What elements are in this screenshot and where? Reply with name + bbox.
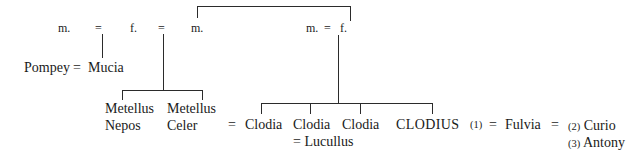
pompey-marriage-sign: = (73, 60, 81, 77)
clodius-label: CLODIUS (396, 117, 459, 134)
fulvia-marriage-2: (2) Curio (568, 117, 625, 134)
clodia-3-label: Clodia (342, 117, 379, 134)
pompey-label: Pompey (24, 60, 70, 77)
metellus-celer-line1: Metellus (167, 100, 216, 117)
metellus-celer-drop (202, 90, 203, 100)
clodius-marriage-number-1: (1) (470, 119, 482, 131)
gen1-right-marriage-sign: = (324, 21, 331, 35)
clodia-1-label: Clodia (245, 117, 282, 134)
metellus-nepos-line1: Metellus (105, 100, 154, 117)
top-connector-left-drop (197, 6, 198, 18)
clodia-2-drop (310, 103, 311, 114)
fulvia-marriage-3: (3) Antony (568, 134, 625, 151)
family-tree-diagram: m. = f. = m. m. = f. Pompey = Mucia Mete… (0, 0, 644, 153)
top-connector-horizontal-rule (197, 6, 351, 7)
gen1-husband1-abbr: m. (58, 21, 70, 35)
clodius-fulvia-marriage-sign-left: = (489, 117, 497, 134)
clodia-1-drop (261, 103, 262, 114)
clodii-descent-line (338, 35, 339, 103)
mucia-label: Mucia (88, 60, 124, 77)
metellus-nepos-line2: Nepos (105, 117, 154, 134)
clodius-drop (432, 103, 433, 114)
metelli-sibling-horizontal-rule (122, 90, 203, 91)
metellus-nepos-drop (122, 90, 123, 100)
clodia-3-drop (360, 103, 361, 114)
fulvia-marriage-sign-right: = (551, 117, 559, 134)
fulvia-later-marriages: (2) Curio (3) Antony (568, 117, 625, 151)
pompey-descent-line (102, 34, 103, 58)
clodia-2-label: Clodia (293, 117, 330, 134)
metellus-celer-line2: Celer (167, 117, 216, 134)
metellus-nepos: Metellus Nepos (105, 100, 154, 134)
fulvia-label: Fulvia (505, 117, 541, 134)
top-connector-right-drop (350, 6, 351, 21)
gen1-wife-abbr: f. (130, 21, 137, 35)
gen1-marriage-sign-1: = (95, 21, 102, 35)
clodia-2-spouse: = Lucullus (293, 134, 353, 151)
celer-clodia-marriage-sign: = (228, 117, 236, 134)
clodii-sibling-horizontal-rule (261, 103, 433, 104)
fulvia-marriage-2-number: (2) (568, 121, 580, 132)
metelli-descent-line (163, 34, 164, 90)
fulvia-marriage-3-husband: Antony (583, 135, 625, 150)
gen1-husband2-abbr: m. (191, 21, 203, 35)
fulvia-marriage-3-number: (3) (568, 138, 580, 149)
metellus-celer: Metellus Celer (167, 100, 216, 134)
fulvia-marriage-2-husband: Curio (584, 118, 616, 133)
gen1-right-wife-abbr: f. (340, 21, 347, 35)
gen1-right-husband-abbr: m. (306, 21, 318, 35)
